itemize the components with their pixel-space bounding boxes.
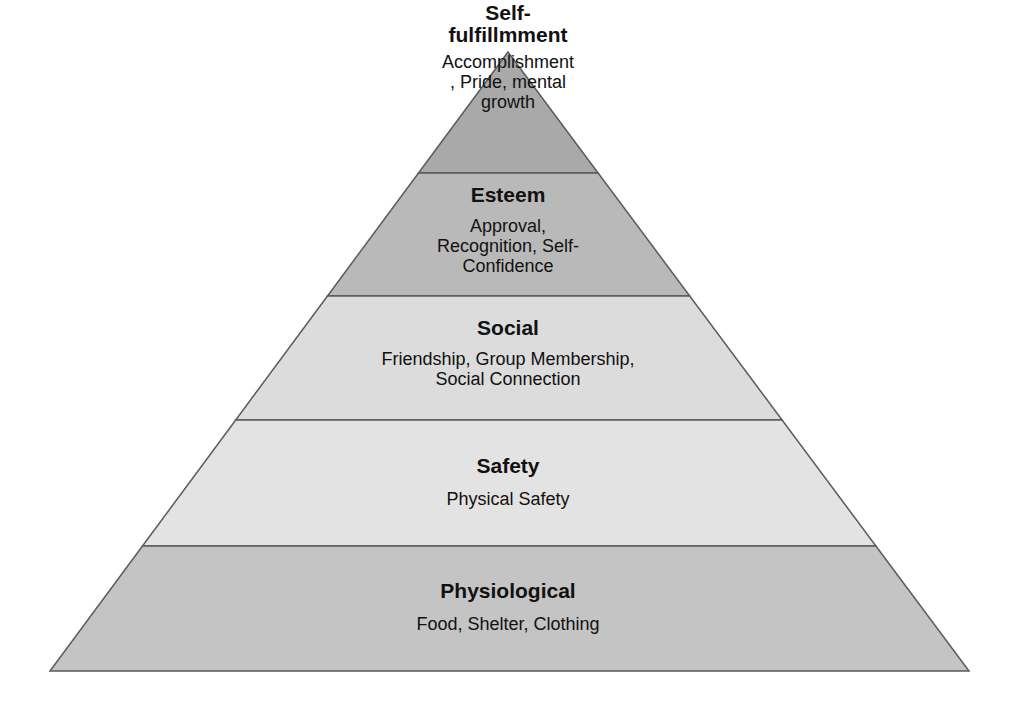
level-self-fulfillment: Self- fulfillmment Accomplishment , Prid…: [408, 2, 608, 112]
level-title: Safety: [358, 455, 658, 477]
level-title: Esteem: [393, 184, 623, 206]
level-description: Accomplishment , Pride, mental growth: [408, 52, 608, 112]
level-description: Approval, Recognition, Self- Confidence: [393, 216, 623, 276]
level-title: Social: [308, 317, 708, 339]
level-description: Friendship, Group Membership, Social Con…: [308, 349, 708, 389]
level-description: Physical Safety: [358, 489, 658, 509]
level-description: Food, Shelter, Clothing: [358, 614, 658, 634]
level-title: Self- fulfillmment: [408, 2, 608, 46]
level-title: Physiological: [358, 580, 658, 602]
level-safety: Safety Physical Safety: [358, 455, 658, 509]
level-esteem: Esteem Approval, Recognition, Self- Conf…: [393, 184, 623, 276]
level-social: Social Friendship, Group Membership, Soc…: [308, 317, 708, 389]
level-physiological: Physiological Food, Shelter, Clothing: [358, 580, 658, 634]
